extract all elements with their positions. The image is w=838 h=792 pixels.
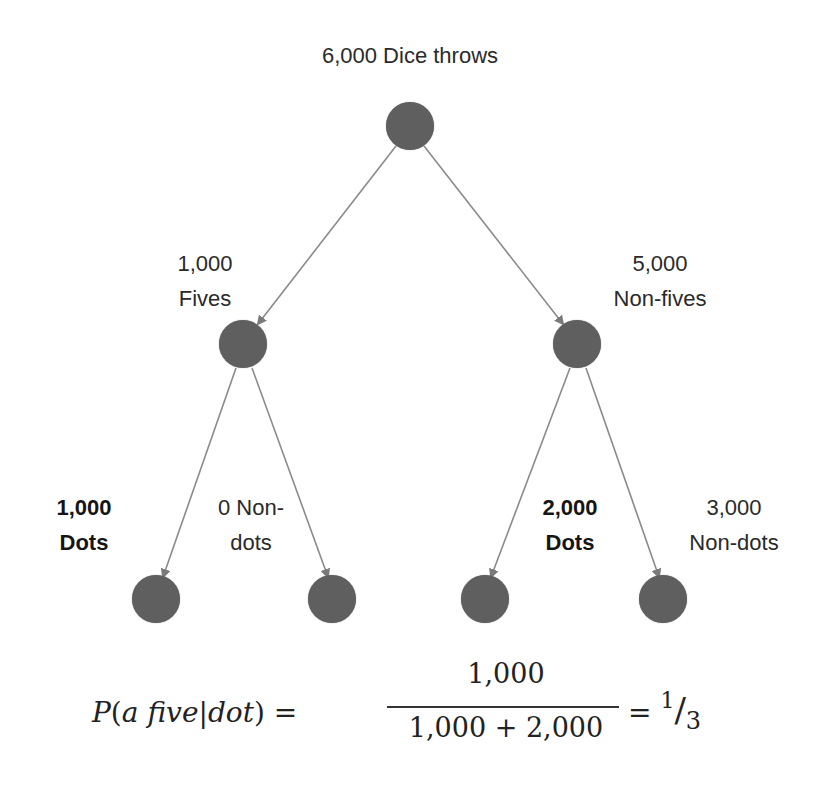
eq-dot: dot	[208, 696, 254, 729]
node-fives	[219, 320, 267, 368]
fives-dots-label: Dots	[34, 525, 134, 560]
equation-lhs: P(a five|dot) =	[92, 696, 297, 729]
fives-non-dots-count: 0 Non-	[196, 490, 306, 525]
eq-numerator: 1,000	[386, 658, 626, 689]
eq-close-paren: )	[254, 696, 265, 729]
node-non-fives	[553, 320, 601, 368]
fives-count: 1,000	[150, 246, 260, 281]
label-non-fives-dots: 2,000 Dots	[520, 490, 620, 560]
edge-root-fives	[258, 146, 396, 324]
eq-P: P	[92, 696, 111, 729]
label-fives: 1,000 Fives	[150, 246, 260, 316]
label-fives-non-dots: 0 Non- dots	[196, 490, 306, 560]
numerator-text: 1,000	[467, 658, 544, 689]
eq-open-paren: (	[111, 696, 122, 729]
probability-tree-diagram: 6,000 Dice throws 1,000 Fives 5,000 Non-…	[0, 0, 838, 792]
denominator-text: 1,000 + 2,000	[409, 712, 603, 743]
node-non-fives-dots	[461, 575, 509, 623]
eq-fraction-line	[387, 706, 619, 708]
eq-equals-1: =	[274, 696, 297, 729]
node-fives-non-dots	[308, 575, 356, 623]
eq-equals-2: =	[628, 696, 651, 729]
non-fives-label: Non-fives	[590, 281, 730, 316]
fives-non-dots-label: dots	[196, 525, 306, 560]
result-denominator: 3	[686, 707, 701, 735]
fives-label: Fives	[150, 281, 260, 316]
equation-result: = 1/3	[628, 690, 701, 735]
node-root	[386, 102, 434, 150]
non-fives-dots-count: 2,000	[520, 490, 620, 525]
result-slash: /	[674, 690, 685, 730]
non-fives-non-dots-label: Non-dots	[664, 525, 804, 560]
eq-a: a	[122, 696, 139, 729]
label-root: 6,000 Dice throws	[310, 38, 510, 73]
non-fives-count: 5,000	[590, 246, 730, 281]
eq-five: five	[147, 696, 198, 729]
non-fives-non-dots-count: 3,000	[664, 490, 804, 525]
label-non-fives-non-dots: 3,000 Non-dots	[664, 490, 804, 560]
eq-denominator: 1,000 + 2,000	[386, 712, 626, 743]
node-non-fives-non-dots	[639, 575, 687, 623]
eq-bar: |	[198, 696, 207, 729]
root-text: 6,000 Dice throws	[322, 43, 498, 68]
fives-dots-count: 1,000	[34, 490, 134, 525]
node-fives-dots	[132, 575, 180, 623]
label-non-fives: 5,000 Non-fives	[590, 246, 730, 316]
label-fives-dots: 1,000 Dots	[34, 490, 134, 560]
edge-root-non-fives	[424, 146, 563, 324]
non-fives-dots-label: Dots	[520, 525, 620, 560]
result-numerator: 1	[660, 688, 674, 713]
